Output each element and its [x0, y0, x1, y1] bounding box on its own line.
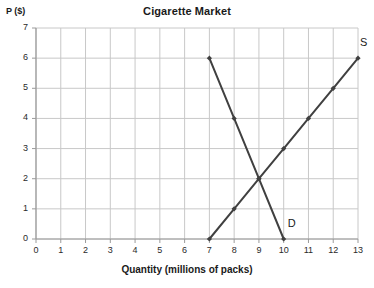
- x-tick-label: 12: [324, 245, 342, 255]
- series-label-d: D: [288, 217, 296, 229]
- x-tick-label: 11: [299, 245, 317, 255]
- x-tick-label: 2: [77, 245, 95, 255]
- x-tick-label: 1: [52, 245, 70, 255]
- y-tick-label: 4: [10, 112, 28, 122]
- x-tick-label: 6: [176, 245, 194, 255]
- tick-marks: [32, 28, 358, 243]
- gridlines: [36, 28, 358, 239]
- x-tick-label: 3: [101, 245, 119, 255]
- x-tick-label: 4: [126, 245, 144, 255]
- x-tick-label: 13: [349, 245, 367, 255]
- cigarette-market-chart: Cigarette Market P ($) Quantity (million…: [0, 0, 374, 288]
- y-tick-label: 5: [10, 82, 28, 92]
- y-tick-label: 1: [10, 203, 28, 213]
- axes: [36, 28, 358, 239]
- y-tick-label: 6: [10, 52, 28, 62]
- y-tick-label: 2: [10, 173, 28, 183]
- y-tick-label: 0: [10, 233, 28, 243]
- x-tick-label: 9: [250, 245, 268, 255]
- x-tick-label: 5: [151, 245, 169, 255]
- y-tick-label: 7: [10, 22, 28, 32]
- x-tick-label: 8: [225, 245, 243, 255]
- series-label-s: S: [360, 36, 367, 48]
- y-tick-label: 3: [10, 143, 28, 153]
- x-tick-label: 7: [200, 245, 218, 255]
- x-tick-label: 0: [27, 245, 45, 255]
- x-tick-label: 10: [275, 245, 293, 255]
